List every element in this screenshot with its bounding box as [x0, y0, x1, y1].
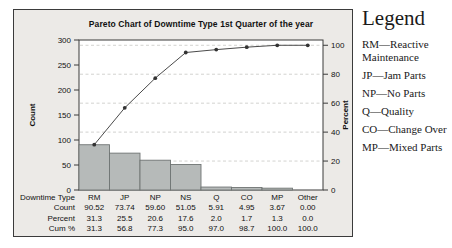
pareto-bar — [79, 145, 110, 190]
stats-cell: 0.00 — [293, 203, 324, 213]
stats-cell: 20.6 — [140, 214, 171, 224]
cumulative-marker — [275, 43, 279, 47]
stats-cell: 51.05 — [171, 203, 202, 213]
stats-cell: 5.91 — [201, 203, 232, 213]
cumulative-marker — [245, 45, 249, 49]
stats-cell: CO — [232, 193, 263, 203]
legend-panel: Legend RM—Reactive MaintenanceJP—Jam Par… — [362, 6, 452, 159]
left-axis-title: Count — [27, 65, 39, 165]
cumulative-marker — [214, 48, 218, 52]
stats-cell: 2.0 — [201, 214, 232, 224]
stats-row: Count90.5273.7459.6051.055.914.953.670.0… — [14, 203, 350, 213]
stats-cell: 59.60 — [140, 203, 171, 213]
stats-row-label: Percent — [14, 214, 79, 224]
stats-cell: JP — [110, 193, 141, 203]
right-axis-tick-label: 100 — [331, 41, 345, 50]
stats-cell: 77.3 — [140, 224, 171, 234]
stats-row: Downtime TypeRMJPNPNSQCOMPOther — [14, 193, 350, 203]
stats-cell: 100.0 — [293, 224, 324, 234]
pareto-bar — [110, 153, 141, 190]
stats-row: Percent31.325.520.617.62.01.71.30.0 — [14, 214, 350, 224]
stats-cell: 4.95 — [232, 203, 263, 213]
pareto-chart-panel: 050100150200250300020406080100 Pareto Ch… — [13, 9, 353, 237]
left-axis-tick-label: 250 — [58, 61, 72, 70]
cumulative-marker — [92, 143, 96, 147]
stats-cell: 1.7 — [232, 214, 263, 224]
legend-item: Q—Quality — [362, 105, 452, 118]
right-axis-title: Percent — [340, 65, 352, 165]
left-axis-tick-label: 300 — [58, 36, 72, 45]
pareto-figure-root: 050100150200250300020406080100 Pareto Ch… — [0, 0, 452, 248]
stats-cell: 98.7 — [232, 224, 263, 234]
legend-items: RM—Reactive MaintenanceJP—Jam PartsNP—No… — [362, 38, 452, 153]
stats-cell: 3.67 — [262, 203, 293, 213]
stats-cell: 56.8 — [110, 224, 141, 234]
pareto-bar — [262, 188, 293, 190]
legend-item: JP—Jam Parts — [362, 69, 452, 82]
pareto-bar — [140, 160, 171, 190]
stats-cell: RM — [79, 193, 110, 203]
stats-cell: 95.0 — [171, 224, 202, 234]
pareto-bar — [171, 164, 202, 190]
stats-cell: 17.6 — [171, 214, 202, 224]
legend-item: NP—No Parts — [362, 87, 452, 100]
stats-cell: 25.5 — [110, 214, 141, 224]
stats-row-label: Downtime Type — [14, 193, 79, 203]
pareto-bar — [201, 187, 232, 190]
legend-item: MP—Mixed Parts — [362, 141, 452, 154]
stats-row-label: Cum % — [14, 224, 79, 234]
cumulative-marker — [184, 51, 188, 55]
legend-item: RM—Reactive Maintenance — [362, 38, 452, 63]
left-axis-tick-label: 100 — [58, 136, 72, 145]
stats-cell: Q — [201, 193, 232, 203]
stats-cell: 1.3 — [262, 214, 293, 224]
left-axis-tick-label: 50 — [62, 161, 71, 170]
legend-item: CO—Change Over — [362, 123, 452, 136]
cumulative-marker — [306, 43, 310, 47]
cumulative-marker — [153, 76, 157, 80]
stats-cell: MP — [262, 193, 293, 203]
stats-cell: NP — [140, 193, 171, 203]
stats-cell: 31.3 — [79, 224, 110, 234]
chart-title: Pareto Chart of Downtime Type 1st Quarte… — [61, 19, 341, 29]
stats-cell: 31.3 — [79, 214, 110, 224]
stats-cell: 90.52 — [79, 203, 110, 213]
stats-row: Cum %31.356.877.395.097.098.7100.0100.0 — [14, 224, 350, 234]
stats-cell: 0.0 — [293, 214, 324, 224]
cumulative-marker — [123, 106, 127, 110]
stats-cell: 97.0 — [201, 224, 232, 234]
left-axis-tick-label: 150 — [58, 111, 72, 120]
stats-table: Downtime TypeRMJPNPNSQCOMPOtherCount90.5… — [14, 193, 350, 235]
stats-cell: Other — [293, 193, 324, 203]
pareto-bar — [232, 188, 263, 190]
stats-cell: 100.0 — [262, 224, 293, 234]
stats-cell: 73.74 — [110, 203, 141, 213]
stats-row-label: Count — [14, 203, 79, 213]
left-axis-tick-label: 200 — [58, 86, 72, 95]
legend-title: Legend — [362, 6, 452, 30]
stats-cell: NS — [171, 193, 202, 203]
